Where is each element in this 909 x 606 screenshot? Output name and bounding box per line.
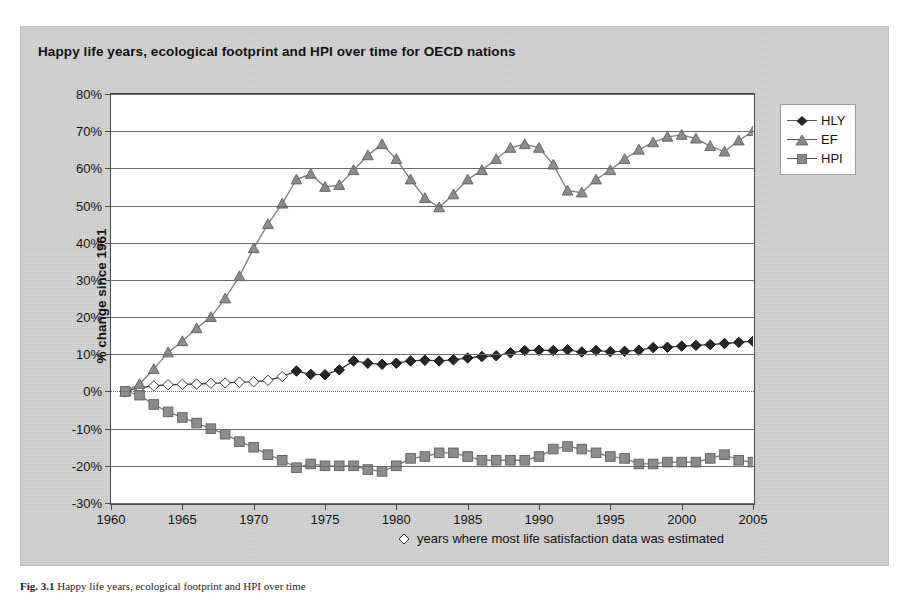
data-point xyxy=(577,444,587,454)
caption-text: Happy life years, ecological footprint a… xyxy=(57,580,305,592)
data-point xyxy=(363,358,373,368)
data-point xyxy=(163,380,173,390)
data-point xyxy=(477,351,487,361)
data-point xyxy=(519,139,530,149)
data-point xyxy=(548,444,558,454)
data-point xyxy=(662,342,672,352)
data-point xyxy=(263,450,273,460)
data-point xyxy=(619,154,630,164)
data-point xyxy=(449,448,459,458)
data-point xyxy=(605,165,616,175)
y-axis-tick-label: 50% xyxy=(76,198,102,213)
data-point xyxy=(192,418,202,428)
data-point xyxy=(405,174,416,184)
gridline xyxy=(111,168,754,169)
data-point xyxy=(377,359,387,369)
data-point xyxy=(477,165,488,175)
data-point xyxy=(220,293,231,303)
data-point xyxy=(163,347,174,357)
data-point xyxy=(577,347,587,357)
gridline xyxy=(111,317,754,318)
data-point xyxy=(191,323,202,333)
footnote: years where most life satisfaction data … xyxy=(398,531,724,546)
legend-label-hly: HLY xyxy=(821,113,845,128)
x-axis-tick xyxy=(111,504,112,510)
data-point xyxy=(434,356,444,366)
data-point xyxy=(733,135,744,145)
data-point xyxy=(676,341,686,351)
data-point xyxy=(420,355,430,365)
y-axis-tick xyxy=(105,391,111,392)
data-point xyxy=(163,407,173,417)
open-diamond-icon xyxy=(398,533,410,545)
data-point xyxy=(434,448,444,458)
x-axis-tick xyxy=(325,504,326,510)
y-axis-tick xyxy=(105,466,111,467)
data-point xyxy=(705,339,715,349)
data-point xyxy=(705,141,716,151)
x-axis-tick-label: 1960 xyxy=(97,512,126,527)
data-point xyxy=(491,351,501,361)
data-point xyxy=(149,381,159,391)
data-point xyxy=(705,454,715,464)
x-axis-tick xyxy=(753,504,754,510)
data-point xyxy=(248,243,259,253)
gridline xyxy=(111,131,754,132)
gridline xyxy=(111,206,754,207)
gridline xyxy=(111,503,754,504)
data-point xyxy=(248,377,258,387)
data-point xyxy=(734,337,744,347)
legend-item-hly[interactable]: HLY xyxy=(787,111,845,130)
diamond-marker-icon xyxy=(787,114,817,128)
data-point xyxy=(648,459,658,469)
y-axis-tick-label: -30% xyxy=(72,496,102,511)
figure-caption: Fig. 3.1 Happy life years, ecological fo… xyxy=(20,580,306,592)
square-marker-icon xyxy=(787,152,817,166)
data-point xyxy=(633,144,644,154)
x-axis-tick-label: 1975 xyxy=(311,512,340,527)
y-axis-tick xyxy=(105,354,111,355)
y-axis-tick xyxy=(105,317,111,318)
data-point xyxy=(691,340,701,350)
data-point xyxy=(191,379,201,389)
x-axis-tick-label: 1995 xyxy=(596,512,625,527)
data-point xyxy=(306,369,316,379)
y-axis-tick-label: 70% xyxy=(76,124,102,139)
legend-item-hpi[interactable]: HPI xyxy=(787,149,845,168)
legend-label-hpi: HPI xyxy=(821,151,843,166)
data-point xyxy=(206,378,216,388)
x-axis-tick-label: 1970 xyxy=(239,512,268,527)
data-point xyxy=(606,452,616,462)
data-point xyxy=(292,463,302,473)
data-point xyxy=(520,455,530,465)
legend-item-ef[interactable]: EF xyxy=(787,130,845,149)
data-point xyxy=(234,377,244,387)
series-hpi xyxy=(120,387,753,477)
data-point xyxy=(420,452,430,462)
x-axis-tick xyxy=(468,504,469,510)
chart-legend: HLY EF HPI xyxy=(780,104,856,175)
data-point xyxy=(277,455,287,465)
x-axis-tick-label: 2005 xyxy=(739,512,768,527)
data-point xyxy=(719,146,730,156)
x-axis-tick xyxy=(539,504,540,510)
y-axis-tick-label: 0% xyxy=(83,384,102,399)
data-point xyxy=(719,338,729,348)
data-point xyxy=(448,355,458,365)
y-axis-tick-label: 60% xyxy=(76,161,102,176)
zero-gridline xyxy=(111,391,754,392)
y-axis-tick xyxy=(105,206,111,207)
y-axis-tick xyxy=(105,131,111,132)
data-point xyxy=(377,467,387,477)
data-point xyxy=(591,448,601,458)
data-point xyxy=(348,356,358,366)
data-point xyxy=(178,413,188,423)
data-point xyxy=(320,370,330,380)
chart-canvas xyxy=(111,94,753,503)
y-axis-tick xyxy=(105,168,111,169)
gridline xyxy=(111,280,754,281)
data-point xyxy=(534,452,544,462)
data-point xyxy=(291,366,301,376)
series-hly xyxy=(120,336,753,397)
x-axis-tick xyxy=(396,504,397,510)
